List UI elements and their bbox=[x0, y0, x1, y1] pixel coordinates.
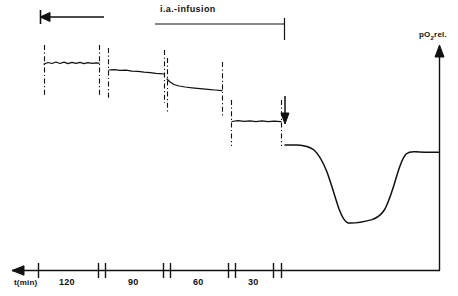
time-axis-label: t(min) bbox=[14, 278, 37, 287]
x-tick-label-90: 90 bbox=[128, 277, 138, 287]
segment-separators bbox=[45, 45, 282, 146]
main-trace-path bbox=[285, 145, 439, 223]
x-tick-label-30: 30 bbox=[248, 277, 258, 287]
y-axis bbox=[435, 45, 444, 271]
x-axis bbox=[12, 263, 440, 278]
x-axis-left-arrowhead bbox=[12, 266, 24, 275]
baseline-segment-30 bbox=[232, 121, 281, 122]
trace-plot-svg bbox=[0, 0, 458, 296]
y-axis-label-main: pO bbox=[419, 30, 431, 39]
infusion-label: i.a.-infusion bbox=[160, 4, 216, 14]
infusion-bracket bbox=[155, 18, 285, 40]
recording-start-marker bbox=[40, 10, 104, 24]
y-axis-label-suffix: rel. bbox=[434, 30, 447, 39]
infusion-end-down-arrow bbox=[281, 96, 289, 124]
baseline-trace-segments bbox=[44, 62, 281, 122]
x-tick-label-60: 60 bbox=[193, 277, 203, 287]
y-axis-up-arrowhead bbox=[435, 45, 444, 57]
main-po2-trace bbox=[285, 145, 439, 223]
baseline-segment-120 bbox=[44, 62, 99, 64]
baseline-segment-90 bbox=[109, 70, 164, 74]
y-axis-label: pO2rel. bbox=[419, 30, 447, 41]
figure-canvas: i.a.-infusion pO2rel. t(min) 120 90 60 3… bbox=[0, 0, 458, 296]
baseline-segment-60 bbox=[167, 79, 222, 91]
x-tick-label-120: 120 bbox=[59, 277, 75, 287]
